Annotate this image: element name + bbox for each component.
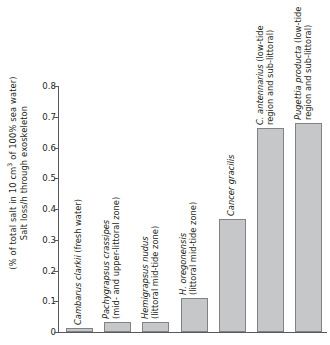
y-axis-tick-labels: 0.80.70.60.50.40.30.20.10 [33, 80, 56, 338]
bar-label-line: Cambarus clarkii (fresh water) [73, 199, 83, 325]
bar-label-line: H. oregonensis [177, 201, 187, 294]
y-tick-label: 0.8 [33, 81, 56, 91]
y-tick-label: 0.7 [33, 112, 56, 122]
y-tick-label: 0.5 [33, 173, 56, 183]
species-name: Pugettia producta [292, 46, 302, 120]
species-name: Pachygrapsus crassipes [101, 220, 111, 319]
bar-chart-figure: Salt loss/h through exoskeleton (% of to… [0, 0, 330, 345]
y-tick-label: 0.6 [33, 143, 56, 153]
bar[interactable]: H. oregonensis(littoral mid-tide zone) [181, 298, 208, 332]
bar[interactable]: Cambarus clarkii (fresh water) [66, 328, 93, 332]
y-tick-label: 0.1 [33, 296, 56, 306]
y-tick-label: 0.2 [33, 266, 56, 276]
bar[interactable]: Pachygrapsus crassipes(mid- and upper-li… [104, 322, 131, 332]
bar[interactable]: C. antennarius (low-tideregion and sub-l… [257, 128, 284, 332]
bar-label-line: Cancer gracilis [226, 154, 236, 215]
species-name: Hemigrapsus nudus [139, 237, 149, 320]
species-name: Cancer gracilis [226, 154, 236, 215]
species-name: Cambarus clarkii [73, 255, 83, 325]
species-name: C. antennarius [254, 64, 264, 125]
y-tick-label: 0 [33, 327, 56, 337]
bar[interactable]: Pugettia producta (low-tideregion and su… [295, 123, 322, 332]
y-tick-label: 0.3 [33, 235, 56, 245]
bar-label-line: Hemigrapsus nudus [139, 226, 149, 319]
plot-area: Cambarus clarkii (fresh water)Pachygraps… [58, 86, 327, 333]
bar-label-line: Pachygrapsus crassipes [101, 197, 111, 319]
y-axis-title-line-1: Salt loss/h through exoskeleton [18, 105, 29, 239]
bar-label-line: C. antennarius (low-tide [254, 25, 264, 125]
bar-label-line: region and sub-littoral) [264, 25, 274, 125]
bar-label-line: (mid- and upper-littoral zone) [111, 197, 121, 319]
bar[interactable]: Hemigrapsus nudus(littoral mid-tide zone… [142, 322, 169, 332]
species-name: H. oregonensis [177, 233, 187, 295]
y-axis-title-line-2-a: (% of total salt in 10 cm [8, 166, 18, 269]
y-tick-mark [54, 332, 59, 333]
y-axis-title-line-2-b: of 100% sea water) [8, 76, 18, 162]
y-tick-label: 0.4 [33, 204, 56, 214]
bar-series: Cambarus clarkii (fresh water)Pachygraps… [59, 86, 327, 332]
bar-label-line: Pugettia producta (low-tide [292, 7, 302, 120]
bar[interactable]: Cancer gracilis [219, 219, 246, 332]
y-axis-title: Salt loss/h through exoskeleton (% of to… [0, 0, 36, 345]
bar-label-line: (littoral mid-tide zone) [149, 226, 159, 319]
y-axis-title-line-2: (% of total salt in 10 cm3 of 100% sea w… [8, 76, 19, 269]
bar-label-line: (littoral mid-tide zone) [187, 201, 197, 294]
bar-label-line: region and sub-littoral) [302, 7, 312, 120]
